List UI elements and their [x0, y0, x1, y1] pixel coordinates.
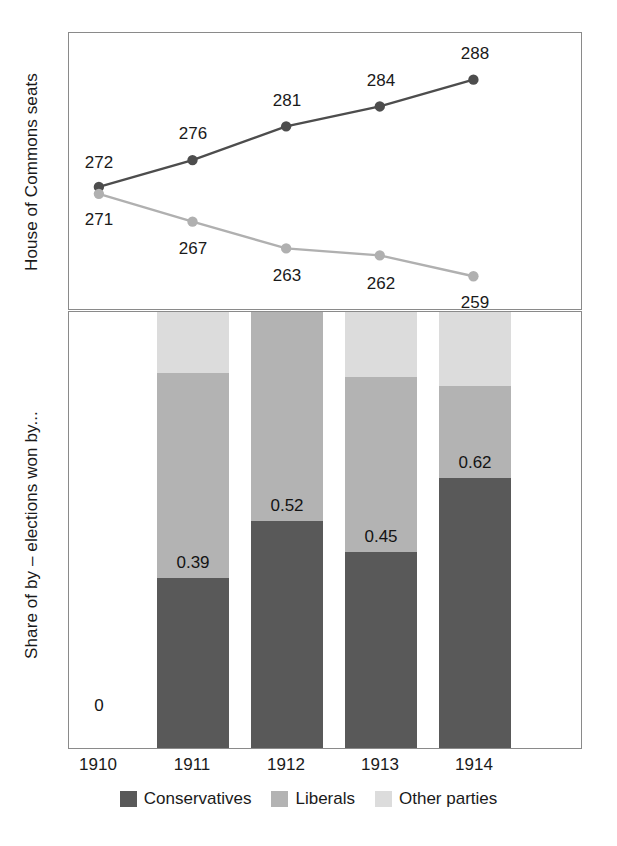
bar-1914 — [439, 312, 511, 748]
conservatives-point-1913 — [375, 101, 385, 111]
liberals-point-1911 — [187, 216, 197, 226]
bar-1913-segment-conservatives — [345, 552, 417, 748]
legend-item-other-parties: Other parties — [375, 789, 497, 809]
legend-item-conservatives: Conservatives — [120, 789, 252, 809]
liberals-value-label-1914: 259 — [461, 293, 489, 313]
legend-swatch-conservatives-icon — [120, 791, 137, 807]
legend-item-liberals: Liberals — [271, 789, 355, 809]
liberals-point-1914 — [468, 271, 478, 281]
bar-1911-segment-conservatives — [157, 578, 229, 748]
bar-1912 — [251, 312, 323, 748]
liberals-value-label-1910: 271 — [85, 210, 113, 230]
line-chart-svg — [69, 33, 581, 309]
bar-1912-segment-conservatives — [251, 521, 323, 748]
top-panel-y-axis-label: House of Commons seats — [21, 32, 43, 312]
bar-chart-panel: 0 0.39 0.52 0.45 — [68, 311, 582, 749]
legend-label-other-parties: Other parties — [399, 789, 497, 809]
conservatives-point-1912 — [281, 121, 291, 131]
bar-value-label-1913: 0.45 — [364, 527, 397, 547]
bar-1913-segment-other — [345, 312, 417, 377]
conservatives-value-label-1910: 272 — [85, 153, 113, 173]
bar-1911 — [157, 312, 229, 748]
legend-label-conservatives: Conservatives — [144, 789, 252, 809]
conservatives-point-1911 — [187, 155, 197, 165]
liberals-point-1913 — [375, 250, 385, 260]
conservatives-value-label-1911: 276 — [179, 124, 207, 144]
line-chart-panel: 272 276 281 284 288 271 267 263 262 259 — [68, 32, 582, 310]
bar-value-label-1914: 0.62 — [458, 453, 491, 473]
conservatives-value-label-1912: 281 — [273, 91, 301, 111]
line-chart-plot-area: 272 276 281 284 288 271 267 263 262 259 — [69, 33, 581, 309]
legend-label-liberals: Liberals — [295, 789, 355, 809]
x-tick-1912: 1912 — [267, 755, 305, 775]
bar-1911-segment-other — [157, 312, 229, 373]
chart-legend: Conservatives Liberals Other parties — [0, 789, 617, 809]
x-tick-1913: 1913 — [361, 755, 399, 775]
liberals-value-label-1911: 267 — [179, 239, 207, 259]
x-tick-1914: 1914 — [455, 755, 493, 775]
legend-swatch-other-parties-icon — [375, 791, 392, 807]
bar-1912-segment-liberals — [251, 312, 323, 521]
figure-root: House of Commons seats — [0, 0, 617, 846]
liberals-point-1910 — [94, 189, 104, 199]
conservatives-value-label-1913: 284 — [367, 71, 395, 91]
conservatives-value-label-1914: 288 — [461, 44, 489, 64]
bar-1911-segment-liberals — [157, 373, 229, 578]
bottom-panel-y-axis-label: Share of by – elections won by... — [21, 320, 43, 750]
conservatives-point-1914 — [468, 74, 478, 84]
bar-value-label-1912: 0.52 — [270, 496, 303, 516]
liberals-value-label-1912: 263 — [273, 266, 301, 286]
bar-chart-plot-area: 0 0.39 0.52 0.45 — [69, 312, 581, 748]
bar-1914-segment-other — [439, 312, 511, 386]
liberals-point-1912 — [281, 243, 291, 253]
zero-annotation-1910: 0 — [94, 696, 103, 716]
liberals-line — [99, 194, 474, 276]
bar-1914-segment-conservatives — [439, 478, 511, 748]
liberals-value-label-1913: 262 — [367, 274, 395, 294]
legend-swatch-liberals-icon — [271, 791, 288, 807]
bar-1913-segment-liberals — [345, 377, 417, 552]
x-tick-1910: 1910 — [79, 755, 117, 775]
bar-value-label-1911: 0.39 — [176, 553, 209, 573]
x-tick-1911: 1911 — [174, 755, 211, 775]
